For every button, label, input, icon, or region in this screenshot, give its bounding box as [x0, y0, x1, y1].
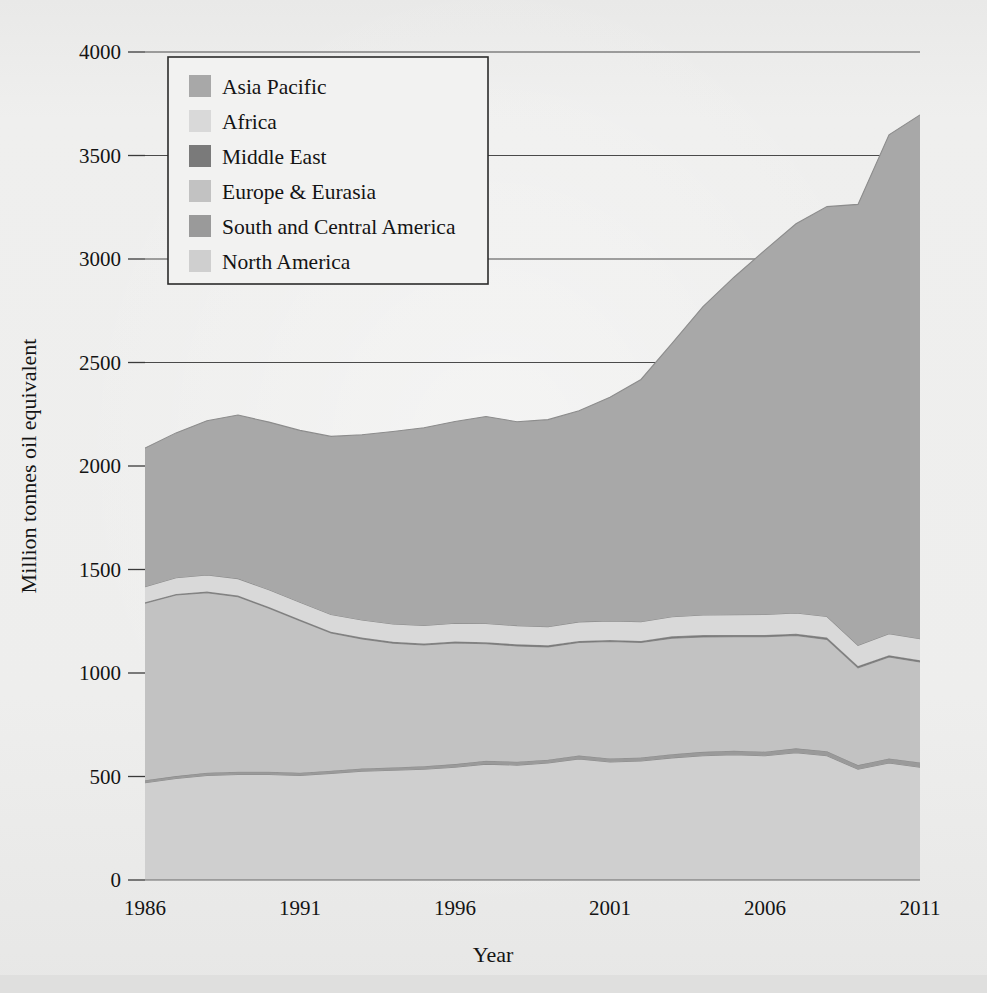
x-tick-label-1991: 1991 — [279, 896, 321, 920]
y-tick-label-0: 0 — [111, 868, 122, 892]
x-tick-label-1996: 1996 — [434, 896, 476, 920]
legend-label-north-america: North America — [222, 250, 351, 274]
y-tick-label-3000: 3000 — [79, 247, 121, 271]
x-axis-title: Year — [473, 942, 514, 967]
legend-swatch-europe-eurasia — [189, 180, 211, 202]
figure-container: 05001000150020002500300035004000 1986199… — [0, 0, 987, 993]
legend-label-europe-eurasia: Europe & Eurasia — [222, 180, 376, 204]
y-tick-label-500: 500 — [90, 765, 122, 789]
x-tick-label-2011: 2011 — [899, 896, 940, 920]
legend-swatch-middle-east — [189, 145, 211, 167]
y-tick-label-3500: 3500 — [79, 144, 121, 168]
x-tick-labels: 198619911996200120062011 — [124, 896, 941, 920]
page-bottom-edge — [0, 975, 987, 993]
x-tick-label-1986: 1986 — [124, 896, 166, 920]
legend-swatch-north-america — [189, 250, 211, 272]
stacked-area-chart: 05001000150020002500300035004000 1986199… — [0, 0, 987, 993]
y-axis-title: Million tonnes oil equivalent — [16, 339, 41, 594]
legend-label-south-and-central-america: South and Central America — [222, 215, 456, 239]
legend-label-middle-east: Middle East — [222, 145, 327, 169]
y-tick-label-1500: 1500 — [79, 558, 121, 582]
legend-label-africa: Africa — [222, 110, 277, 134]
legend-swatch-asia-pacific — [189, 75, 211, 97]
legend: Asia PacificAfricaMiddle EastEurope & Eu… — [168, 57, 488, 284]
legend-swatch-south-and-central-america — [189, 215, 211, 237]
y-tick-label-2000: 2000 — [79, 454, 121, 478]
y-tick-label-1000: 1000 — [79, 661, 121, 685]
y-tick-labels: 05001000150020002500300035004000 — [79, 40, 121, 892]
x-tick-label-2006: 2006 — [744, 896, 786, 920]
legend-label-asia-pacific: Asia Pacific — [222, 75, 326, 99]
legend-swatch-africa — [189, 110, 211, 132]
y-tick-label-2500: 2500 — [79, 351, 121, 375]
x-tick-label-2001: 2001 — [589, 896, 631, 920]
y-tick-label-4000: 4000 — [79, 40, 121, 64]
